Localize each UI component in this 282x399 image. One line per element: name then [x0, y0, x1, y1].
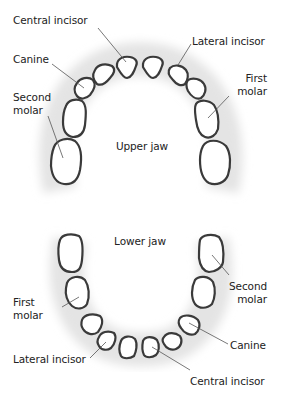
lower-central-incisor-left [120, 337, 137, 359]
label-lower-first-molar: First molar [13, 296, 43, 322]
upper-second-molar-left [51, 139, 81, 184]
label-upper-second-molar-line1: Second [13, 91, 51, 104]
lower-lateral-incisor-left [98, 332, 116, 350]
teeth-diagram: Central incisor Lateral incisor Canine F… [0, 0, 282, 399]
label-upper-central-incisor: Central incisor [13, 14, 88, 27]
label-upper-second-molar-line2: molar [13, 104, 51, 117]
label-upper-first-molar-line2: molar [226, 85, 267, 98]
label-lower-central-incisor: Central incisor [190, 375, 265, 388]
lower-jaw-title: Lower jaw [110, 235, 170, 248]
lower-central-incisor-right [142, 337, 158, 357]
upper-jaw-title: Upper jaw [112, 140, 172, 153]
label-upper-first-molar-line1: First [226, 72, 267, 85]
label-lower-first-molar-line1: First [13, 296, 43, 309]
label-upper-second-molar: Second molar [13, 91, 51, 117]
lower-second-molar-right [199, 235, 223, 272]
upper-second-molar-right [200, 141, 230, 184]
lower-lateral-incisor-right [163, 333, 182, 350]
label-lower-second-molar: Second molar [222, 280, 267, 306]
upper-first-molar-left [63, 100, 86, 137]
label-upper-canine: Canine [13, 53, 49, 66]
upper-first-molar-right [195, 101, 219, 138]
label-upper-lateral-incisor: Lateral incisor [192, 35, 265, 48]
label-lower-second-molar-line1: Second [222, 280, 267, 293]
lower-first-molar-left [66, 277, 89, 309]
lower-first-molar-right [192, 277, 215, 308]
label-lower-first-molar-line2: molar [13, 309, 43, 322]
label-upper-first-molar: First molar [226, 72, 267, 98]
lower-second-molar-left [58, 234, 82, 272]
label-lower-lateral-incisor: Lateral incisor [13, 353, 86, 366]
label-lower-second-molar-line2: molar [222, 293, 267, 306]
lower-canine-left [81, 314, 102, 334]
label-lower-canine: Canine [230, 339, 266, 352]
